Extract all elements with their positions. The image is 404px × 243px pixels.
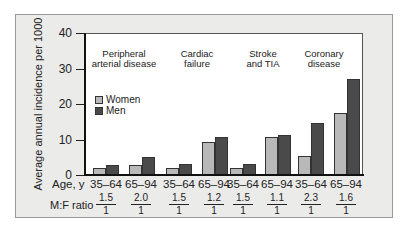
age-range-label: 65–94: [330, 178, 362, 191]
women-swatch-icon: [95, 96, 103, 104]
age-range-label: 35–64: [295, 178, 327, 191]
men-swatch-icon: [95, 107, 103, 115]
bar-men: [142, 157, 155, 175]
mf-ratio-value: 2.31: [301, 193, 321, 216]
group-title-coronary-disease: Coronary disease: [279, 49, 369, 69]
ratio-numerator: 2.0: [131, 193, 151, 205]
y-axis-label: Average annual incidence per 1000: [31, 14, 45, 194]
y-tick-40: [76, 33, 84, 34]
bar-women: [202, 142, 215, 175]
legend-item-women: Women: [95, 94, 140, 105]
age-range-label: 35–64: [227, 178, 259, 191]
x-axis-label: Age, y: [52, 178, 85, 191]
ratio-denominator: 1: [96, 205, 116, 216]
bar-women: [265, 137, 278, 175]
mf-ratio-value: 2.01: [131, 193, 151, 216]
ratio-denominator: 1: [267, 205, 287, 216]
bar-men: [347, 79, 360, 175]
ratio-denominator: 1: [301, 205, 321, 216]
ratio-denominator: 1: [233, 205, 253, 216]
bar-men: [311, 123, 324, 175]
y-tick-label-10: 10: [50, 134, 72, 146]
bar-men: [215, 137, 228, 175]
age-range-label: 35–64: [90, 178, 122, 191]
ratio-denominator: 1: [169, 205, 189, 216]
y-tick-label-30: 30: [50, 63, 72, 75]
y-tick-10: [76, 140, 84, 141]
age-range-label: 65–94: [198, 178, 230, 191]
y-tick-0: [76, 175, 84, 176]
ratio-numerator: 1.6: [336, 193, 356, 205]
bar-women: [298, 156, 311, 175]
y-axis: [84, 33, 86, 176]
group-title-line: disease: [279, 59, 369, 69]
ratio-numerator: 2.3: [301, 193, 321, 205]
legend: Women Men: [95, 94, 140, 116]
mf-ratio-value: 1.51: [96, 193, 116, 216]
legend-item-men: Men: [95, 105, 140, 116]
bar-men: [278, 135, 291, 175]
y-tick-label-40: 40: [50, 27, 72, 39]
legend-label: Men: [106, 105, 125, 116]
ratio-numerator: 1.2: [204, 193, 224, 205]
age-range-label: 65–94: [125, 178, 157, 191]
ratio-numerator: 1.5: [233, 193, 253, 205]
mf-ratio-value: 1.11: [267, 193, 287, 216]
ratio-numerator: 1.1: [267, 193, 287, 205]
mf-ratio-value: 1.21: [204, 193, 224, 216]
legend-label: Women: [106, 94, 140, 105]
ratio-denominator: 1: [336, 205, 356, 216]
ratio-numerator: 1.5: [169, 193, 189, 205]
ratio-denominator: 1: [131, 205, 151, 216]
bar-women: [334, 113, 347, 175]
mf-ratio-value: 1.51: [233, 193, 253, 216]
x-axis: [84, 174, 364, 176]
ratio-denominator: 1: [204, 205, 224, 216]
mf-ratio-value: 1.61: [336, 193, 356, 216]
ratio-label: M:F ratio: [50, 199, 93, 211]
age-range-label: 65–94: [261, 178, 293, 191]
y-tick-label-20: 20: [50, 98, 72, 110]
ratio-numerator: 1.5: [96, 193, 116, 205]
age-range-label: 35–64: [163, 178, 195, 191]
mf-ratio-value: 1.51: [169, 193, 189, 216]
y-tick-20: [76, 104, 84, 105]
y-tick-30: [76, 69, 84, 70]
